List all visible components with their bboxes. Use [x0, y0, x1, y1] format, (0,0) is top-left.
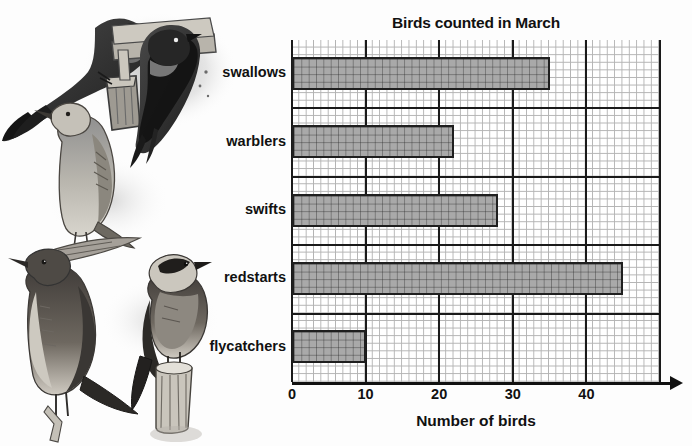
x-axis-title: Number of birds: [292, 412, 660, 430]
chart-title: Birds counted in March: [292, 14, 660, 32]
bar-flycatchers: [292, 330, 366, 363]
category-label-swifts: swifts: [245, 201, 286, 217]
category-label-flycatchers: flycatchers: [209, 338, 286, 354]
bar-swifts: [292, 194, 498, 227]
major-gridline-vertical: [659, 40, 661, 382]
bar-gridlines: [294, 332, 364, 361]
bar-gridlines: [294, 59, 548, 88]
bar-gridlines: [294, 264, 621, 293]
x-tick-label-0: 0: [288, 386, 296, 402]
major-gridline-horizontal: [292, 107, 660, 109]
category-label-warblers: warblers: [226, 133, 286, 149]
bar-chart: Birds counted in March 010203040 swallow…: [0, 0, 692, 446]
bar-gridlines: [294, 127, 452, 156]
category-label-swallows: swallows: [222, 64, 286, 80]
x-tick-label-40: 40: [578, 386, 594, 402]
x-axis-arrow: [670, 376, 683, 390]
bar-gridlines: [294, 196, 496, 225]
bar-swallows: [292, 57, 550, 90]
x-tick-label-10: 10: [358, 386, 374, 402]
major-gridline-vertical: [512, 40, 514, 382]
bar-redstarts: [292, 262, 623, 295]
x-axis-line: [292, 382, 674, 385]
major-gridline-horizontal: [292, 313, 660, 315]
plot-area: [292, 40, 660, 382]
category-label-redstarts: redstarts: [224, 269, 286, 285]
major-gridline-vertical: [585, 40, 587, 382]
x-tick-label-20: 20: [431, 386, 447, 402]
major-gridline-horizontal: [292, 244, 660, 246]
x-tick-label-30: 30: [505, 386, 521, 402]
bar-chart-worksheet-figure: Birds counted in March 010203040 swallow…: [0, 0, 692, 446]
major-gridline-horizontal: [292, 176, 660, 178]
bar-warblers: [292, 125, 454, 158]
